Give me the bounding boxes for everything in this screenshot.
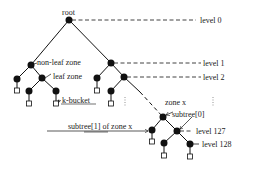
level-1-label: level 1 xyxy=(203,59,225,68)
node xyxy=(14,76,21,83)
node xyxy=(39,75,46,82)
node xyxy=(94,75,101,82)
node xyxy=(174,128,181,135)
zone-x-label: zone x xyxy=(165,98,186,107)
k-bucket-label: k-bucket xyxy=(62,96,91,105)
node xyxy=(121,74,128,81)
node xyxy=(187,141,194,148)
node xyxy=(108,88,115,95)
level-0-label: level 0 xyxy=(200,16,222,25)
node xyxy=(108,60,115,67)
zone-x-node xyxy=(160,114,167,121)
level-127-label: level 127 xyxy=(196,127,226,136)
leaf-zone-label: leaf zone xyxy=(53,72,83,81)
node xyxy=(26,88,33,95)
elided-path xyxy=(140,92,163,117)
node xyxy=(28,62,35,69)
non-leaf-zone-label: non-leaf zone xyxy=(37,58,81,67)
node xyxy=(149,127,156,134)
root-node xyxy=(66,17,73,24)
level-2-label: level 2 xyxy=(203,73,225,82)
root-label: root xyxy=(62,8,76,17)
level-128-label: level 128 xyxy=(202,140,232,149)
tree-edges xyxy=(17,20,190,154)
subtree1-label: subtree[1] of zone x xyxy=(68,122,132,131)
subtree0-label: subtree[0] xyxy=(172,110,205,119)
node xyxy=(53,88,60,95)
kademlia-tree-diagram: root non-leaf zone leaf zone k-bucket zo… xyxy=(0,0,253,171)
node xyxy=(161,140,168,147)
